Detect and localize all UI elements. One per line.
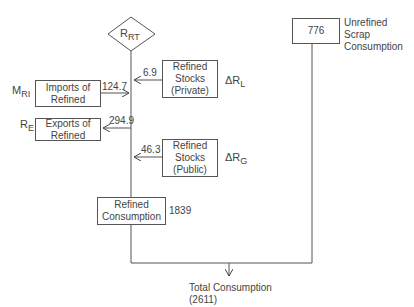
refined-consumption-value: 1839 — [169, 205, 191, 217]
scrap-box: 776 — [292, 18, 340, 44]
imports-symbol: MRI — [12, 84, 30, 99]
private-stocks-box: Refined Stocks (Private) — [162, 60, 218, 98]
private-stocks-symbol: ΔRL — [225, 74, 245, 89]
public-stocks-flow: 46.3 — [141, 144, 160, 156]
exports-symbol: RE — [20, 118, 34, 133]
imports-box: Imports of Refined — [35, 80, 101, 107]
scrap-label: Unrefined Scrap Consumption — [344, 17, 403, 53]
node-rrt-label: RRT — [120, 27, 140, 42]
public-stocks-box: Refined Stocks (Public) — [162, 139, 218, 177]
total-consumption-label: Total Consumption (2611) — [189, 282, 272, 306]
refined-consumption-box: Refined Consumption — [97, 197, 166, 225]
private-stocks-flow: 6.9 — [143, 67, 157, 79]
exports-box: Exports of Refined — [35, 118, 101, 141]
public-stocks-symbol: ΔRG — [225, 151, 247, 166]
imports-flow: 124.7 — [102, 81, 127, 93]
exports-flow: 294.9 — [109, 115, 134, 127]
